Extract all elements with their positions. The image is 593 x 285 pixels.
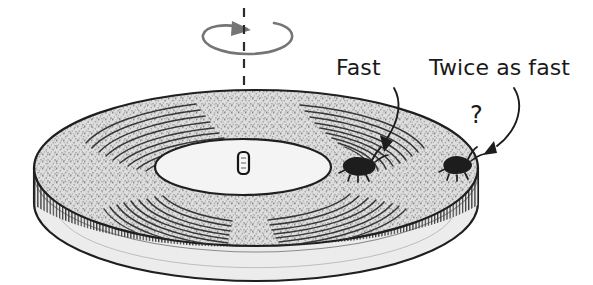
label-fast: Fast [336,57,381,79]
label-twice-as-fast: Twice as fast [429,57,570,79]
label-question-mark: ? [470,103,483,127]
turntable-figure: Fast Twice as fast ? [0,0,593,285]
spindle-icon [238,152,249,174]
rotation-arrow-icon [203,21,292,54]
curved-arrow-icon-twice [483,88,519,155]
turntable-illustration [0,0,593,285]
